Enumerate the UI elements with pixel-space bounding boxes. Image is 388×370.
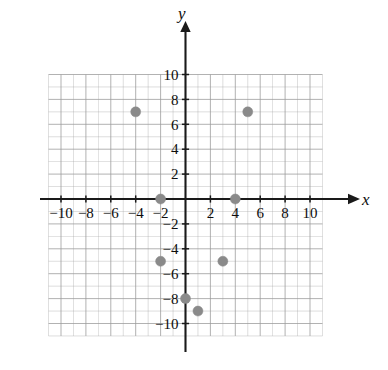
data-point	[230, 194, 240, 204]
y-tick-label: 6	[171, 117, 179, 133]
x-tick-label: −10	[49, 205, 72, 221]
y-tick-label: 2	[171, 166, 179, 182]
x-tick-label: −4	[128, 205, 144, 221]
x-tick-label: −6	[103, 205, 119, 221]
x-axis-arrowhead	[348, 194, 360, 204]
data-point	[181, 294, 191, 304]
data-point	[156, 256, 166, 266]
y-tick-label: 4	[171, 141, 179, 157]
x-axis-label: x	[361, 190, 370, 209]
y-tick-label: −2	[163, 216, 179, 232]
coordinate-plane-svg: −10−8−6−4−2246810 108642−2−4−6−8−10 x y	[0, 0, 388, 370]
x-axis-tick-labels: −10−8−6−4−2246810	[49, 205, 317, 221]
y-tick-label: −6	[163, 266, 179, 282]
coordinate-plane-figure: −10−8−6−4−2246810 108642−2−4−6−8−10 x y	[0, 0, 388, 370]
data-point	[156, 194, 166, 204]
data-point	[218, 256, 228, 266]
y-tick-label: −8	[163, 291, 179, 307]
x-tick-label: 8	[281, 205, 289, 221]
y-tick-label: 8	[171, 92, 179, 108]
data-point	[131, 107, 141, 117]
x-tick-label: −8	[78, 205, 94, 221]
x-tick-label: 4	[232, 205, 240, 221]
x-tick-label: 10	[303, 205, 318, 221]
data-point	[243, 107, 253, 117]
x-tick-label: 6	[256, 205, 264, 221]
y-tick-label: −10	[155, 316, 178, 332]
y-axis-label: y	[176, 4, 186, 23]
data-point	[193, 306, 203, 316]
y-tick-label: −4	[163, 241, 179, 257]
y-tick-label: 10	[164, 67, 179, 83]
x-tick-label: 2	[207, 205, 215, 221]
